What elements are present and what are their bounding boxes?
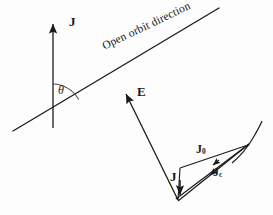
current-vector-label: J (170, 170, 177, 183)
current-open-orbit-label-sub: 0 (202, 147, 206, 156)
current-open-orbit-label: J0 (196, 143, 206, 156)
angle-arc (53, 84, 79, 100)
current-closed-orbit-label: Jc (213, 166, 222, 179)
vector-diagram-figure: J θ Open orbit direction E J J0 Jc (0, 0, 273, 215)
electric-field-arrow (126, 94, 178, 200)
orbit-curve (232, 121, 262, 163)
open-orbit-line (13, 8, 219, 131)
current-closed-orbit-label-sub: c (219, 170, 222, 179)
electric-field-label: E (137, 85, 146, 98)
current-axis-label: J (69, 15, 76, 28)
angle-label: θ (58, 84, 64, 96)
